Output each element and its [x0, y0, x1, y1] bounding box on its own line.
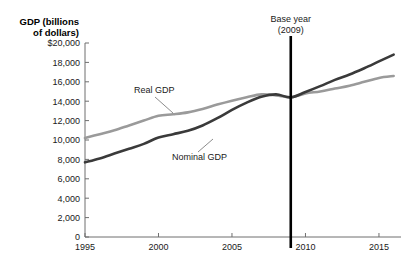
y-axis-tick-label: 18,000: [52, 58, 80, 68]
x-axis-tick-label: 2000: [148, 242, 168, 252]
y-axis-title-line2: of dollars): [33, 27, 79, 38]
y-axis-tick-label: 10,000: [52, 135, 80, 145]
y-axis-tick-label: $20,000: [47, 38, 80, 48]
y-axis-tick-label: 16,000: [52, 77, 80, 87]
y-axis-title-line1: GDP (billions: [20, 16, 79, 27]
gdp-line-chart: 02,0004,0006,0008,00010,00012,00014,0001…: [0, 0, 415, 271]
x-axis-tick-label: 2005: [222, 242, 242, 252]
y-axis-tick-label: 0: [75, 232, 80, 242]
x-axis-tick-label: 2015: [369, 242, 389, 252]
y-axis-tick-label: 12,000: [52, 116, 80, 126]
x-axis-tick-label: 1995: [75, 242, 95, 252]
base-year-label-line1: Base year: [271, 14, 312, 24]
y-axis-tick-label: 8,000: [57, 155, 80, 165]
y-axis-tick-label: 2,000: [57, 213, 80, 223]
y-axis-tick-label: 4,000: [57, 194, 80, 204]
x-axis-tick-label: 2010: [295, 242, 315, 252]
y-axis-tick-label: 6,000: [57, 174, 80, 184]
series-label-real-gdp: Real GDP: [134, 85, 175, 95]
chart-figure: 02,0004,0006,0008,00010,00012,00014,0001…: [0, 0, 415, 271]
base-year-label-line2: (2009): [278, 25, 304, 35]
series-label-nominal-gdp: Nominal GDP: [172, 152, 227, 162]
y-axis-tick-label: 14,000: [52, 97, 80, 107]
